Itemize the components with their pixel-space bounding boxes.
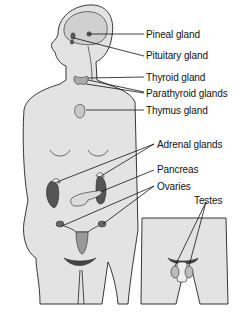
label-pancreas: Pancreas [157,164,198,175]
label-adrenal-glands: Adrenal glands [157,139,222,150]
ovary-right [98,221,106,227]
label-parathyroid-glands: Parathyroid glands [146,88,228,99]
label-thyroid-gland: Thyroid gland [146,72,205,83]
thyroid-gland [74,76,88,84]
label-pineal-gland: Pineal gland [146,29,200,40]
label-thymus-gland: Thymus gland [146,105,208,116]
testis-left [171,266,179,278]
label-pituitary-gland: Pituitary gland [146,50,208,61]
endocrine-diagram: Pineal gland Pituitary gland Thyroid gla… [0,0,241,335]
label-ovaries: Ovaries [157,181,191,192]
label-testes: Testes [194,195,222,206]
ovary-left [56,221,64,227]
thymus-gland [75,105,85,119]
testis-right [185,266,193,278]
